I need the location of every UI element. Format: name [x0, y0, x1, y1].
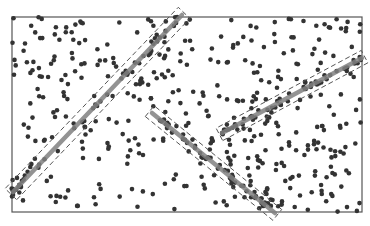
- data-point: [222, 199, 227, 204]
- data-point: [322, 128, 327, 133]
- data-point: [95, 63, 100, 68]
- data-point: [70, 51, 75, 56]
- data-point: [40, 36, 45, 41]
- data-point: [287, 140, 292, 145]
- data-point: [219, 34, 224, 39]
- data-point: [208, 57, 213, 62]
- data-point: [274, 168, 279, 173]
- data-point: [276, 68, 281, 73]
- data-point: [98, 187, 103, 192]
- data-point: [344, 29, 349, 34]
- data-point: [45, 179, 50, 184]
- data-point: [81, 156, 86, 161]
- data-point: [302, 153, 307, 158]
- data-point: [264, 97, 269, 102]
- data-point: [174, 124, 179, 129]
- data-point: [12, 58, 17, 63]
- data-point: [319, 183, 324, 188]
- data-point: [312, 47, 317, 52]
- data-point: [335, 209, 340, 214]
- data-point: [255, 90, 260, 95]
- data-point: [259, 132, 264, 137]
- data-point: [22, 122, 27, 127]
- data-point: [46, 75, 51, 80]
- data-point: [70, 56, 75, 61]
- data-point: [186, 121, 191, 126]
- data-point: [138, 78, 143, 83]
- data-point: [146, 17, 151, 22]
- data-point: [358, 97, 363, 102]
- data-point: [324, 199, 329, 204]
- data-point: [254, 25, 259, 30]
- data-point: [339, 184, 344, 189]
- data-point: [33, 139, 38, 144]
- data-point: [10, 40, 15, 45]
- data-point: [294, 77, 299, 82]
- data-point: [226, 60, 231, 65]
- data-point: [199, 174, 204, 179]
- data-point: [248, 24, 253, 29]
- data-point: [73, 22, 78, 27]
- data-point: [275, 85, 280, 90]
- data-point: [125, 161, 130, 166]
- fitted-line: [152, 113, 275, 213]
- data-point: [59, 78, 64, 83]
- data-point: [126, 138, 131, 143]
- data-point: [154, 76, 159, 81]
- data-point: [71, 38, 76, 43]
- data-point: [137, 151, 142, 156]
- data-point: [21, 48, 26, 53]
- data-point: [247, 173, 252, 178]
- data-point: [249, 38, 254, 43]
- data-point: [354, 108, 359, 113]
- data-point: [358, 120, 363, 125]
- data-point: [135, 205, 140, 210]
- data-point: [141, 189, 146, 194]
- data-point: [137, 97, 142, 102]
- data-point: [178, 59, 183, 64]
- data-point: [198, 161, 203, 166]
- data-point: [319, 92, 324, 97]
- data-point: [152, 70, 157, 75]
- data-point: [204, 108, 209, 113]
- data-point: [63, 195, 68, 200]
- data-point: [265, 187, 270, 192]
- data-point: [231, 45, 236, 50]
- data-point: [162, 56, 167, 61]
- data-point: [190, 47, 195, 52]
- data-point: [171, 90, 176, 95]
- data-point: [306, 147, 311, 152]
- data-point: [114, 64, 119, 69]
- data-point: [226, 155, 231, 160]
- data-point: [80, 21, 85, 26]
- data-point: [255, 154, 260, 159]
- data-point: [243, 138, 248, 143]
- data-point: [310, 52, 315, 57]
- data-point: [236, 41, 241, 46]
- data-point: [146, 82, 151, 87]
- data-point: [344, 122, 349, 127]
- data-point: [216, 60, 221, 65]
- data-point: [174, 172, 179, 177]
- data-point: [210, 138, 215, 143]
- data-point: [301, 19, 306, 24]
- data-point: [294, 130, 299, 135]
- data-point: [126, 118, 131, 123]
- data-point: [256, 165, 261, 170]
- data-point: [52, 58, 57, 63]
- data-point: [339, 26, 344, 31]
- data-point: [246, 156, 251, 161]
- data-point: [77, 41, 82, 46]
- data-point: [338, 126, 343, 131]
- data-point: [320, 124, 325, 129]
- data-point: [29, 23, 34, 28]
- data-point: [92, 94, 97, 99]
- data-point: [262, 45, 267, 50]
- data-point: [166, 69, 171, 74]
- data-point: [282, 51, 287, 56]
- data-point: [206, 114, 211, 119]
- data-point: [12, 73, 17, 78]
- data-point: [106, 74, 111, 79]
- data-point: [225, 150, 230, 155]
- data-point: [88, 128, 93, 133]
